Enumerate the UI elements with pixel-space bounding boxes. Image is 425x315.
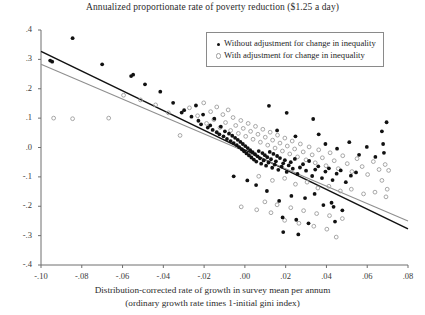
y-tick-label: .1 bbox=[8, 112, 32, 122]
x-tick-label: -.10 bbox=[21, 271, 61, 281]
y-tick-label: .4 bbox=[8, 24, 32, 34]
x-tick-label: -.02 bbox=[184, 271, 224, 281]
x-axis-title-line1: Distribution-corrected rate of growth in… bbox=[0, 285, 425, 295]
y-tick-label: -.4 bbox=[8, 259, 32, 269]
regression-lines-group bbox=[41, 51, 408, 228]
x-tick-label: -.04 bbox=[143, 271, 183, 281]
y-tick-label: -.1 bbox=[8, 171, 32, 181]
y-tick-label: -.3 bbox=[8, 230, 32, 240]
legend-item: With adjustment for change in inequality bbox=[213, 49, 376, 61]
x-axis-title-line2: (ordinary growth rate times 1-initial gi… bbox=[0, 298, 425, 308]
chart-legend: Without adjustment for change in inequal… bbox=[206, 32, 384, 67]
legend-item: Without adjustment for change in inequal… bbox=[213, 37, 376, 49]
y-tick-label: .3 bbox=[8, 53, 32, 63]
x-tick-label: .02 bbox=[266, 271, 306, 281]
x-tick-label: -.08 bbox=[62, 271, 102, 281]
y-tick-label: .2 bbox=[8, 83, 32, 93]
x-tick-label: .04 bbox=[306, 271, 346, 281]
y-tick-label: -.2 bbox=[8, 200, 32, 210]
filled-dot-icon bbox=[213, 38, 224, 48]
x-tick-label: .00 bbox=[225, 271, 265, 281]
x-tick-label: .06 bbox=[347, 271, 387, 281]
x-tick-label: -.06 bbox=[103, 271, 143, 281]
open-circle-icon bbox=[213, 50, 224, 60]
legend-item-label: With adjustment for change in inequality bbox=[224, 50, 365, 60]
x-tick-label: .08 bbox=[388, 271, 425, 281]
y-tick-label: .0 bbox=[8, 142, 32, 152]
chart-root: Annualized proportionate rate of poverty… bbox=[0, 0, 425, 315]
legend-item-label: Without adjustment for change in inequal… bbox=[224, 38, 376, 48]
series-with-adjustment-points bbox=[52, 93, 391, 239]
